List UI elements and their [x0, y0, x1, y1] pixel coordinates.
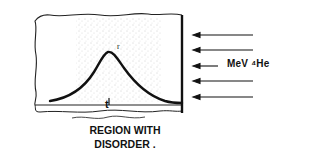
beam-label: MeV ⁴He	[227, 58, 269, 69]
caption-line-2: DISORDER .	[60, 137, 190, 151]
caption: REGION WITH DISORDER .	[60, 123, 190, 151]
peak-mark: r	[117, 42, 120, 51]
brace-wave	[72, 116, 145, 118]
caption-line-1: REGION WITH	[60, 123, 190, 137]
caption-line-2-text: DISORDER	[94, 138, 149, 150]
caption-trailing: .	[153, 138, 156, 150]
depth-label: t	[105, 98, 109, 110]
